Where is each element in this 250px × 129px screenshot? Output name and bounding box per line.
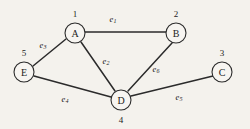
node-number-e: 5 — [22, 48, 27, 58]
edge-labels-layer: e1e2e3e4e5e6 — [40, 14, 183, 104]
node-number-d: 4 — [119, 115, 124, 125]
node-label-d: D — [117, 95, 124, 106]
edge-label-subscript: 2 — [106, 60, 109, 66]
edges-layer — [33, 32, 213, 97]
node-number-b: 2 — [174, 9, 179, 19]
edge-label-subscript: 3 — [42, 44, 46, 50]
edge-label-e5: e5 — [176, 92, 183, 102]
node-label-b: B — [173, 28, 180, 39]
graph-edge-b-d — [128, 43, 172, 91]
edge-label-e2: e2 — [103, 56, 110, 66]
edge-label-subscript: 1 — [113, 18, 116, 24]
edge-label-subscript: 4 — [65, 98, 68, 104]
graph-edge-a-d — [81, 42, 115, 91]
edge-label-subscript: 5 — [179, 96, 182, 102]
node-number-c: 3 — [220, 48, 225, 58]
graph-canvas: ABCDE e1e2e3e4e5e6 12345 — [0, 0, 250, 129]
edge-label-e6: e6 — [153, 64, 160, 74]
node-number-a: 1 — [73, 9, 78, 19]
node-label-a: A — [71, 28, 79, 39]
node-label-c: C — [219, 67, 226, 78]
nodes-layer: ABCDE — [14, 23, 232, 110]
graph-edge-a-e — [33, 39, 66, 66]
edge-label-subscript: 6 — [156, 68, 159, 74]
edge-label-e1: e1 — [110, 14, 117, 24]
edge-label-e3: e3 — [40, 40, 47, 50]
graph-edge-d-c — [131, 76, 213, 96]
edge-label-e4: e4 — [62, 94, 69, 104]
graph-figure: ABCDE e1e2e3e4e5e6 12345 — [0, 0, 250, 129]
node-label-e: E — [21, 67, 27, 78]
graph-edge-e-d — [34, 76, 111, 97]
